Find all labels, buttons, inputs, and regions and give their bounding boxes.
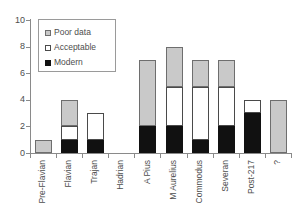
x-axis-category-label: Pre-Flavian xyxy=(38,160,47,217)
bar-group xyxy=(166,20,183,153)
bar-segment-poor-data xyxy=(35,140,52,153)
bar-segment-poor-data xyxy=(139,60,156,127)
x-axis-category-label: Severan xyxy=(221,160,230,217)
bar-group xyxy=(244,20,261,153)
bar-segment-poor-data xyxy=(270,100,287,153)
bar-segment-acceptable xyxy=(166,87,183,127)
x-axis-category-label: Trajan xyxy=(90,160,99,217)
legend-swatch-modern-icon xyxy=(45,60,51,66)
bar-group xyxy=(139,20,156,153)
x-axis-category-label: Post-217 xyxy=(247,160,256,217)
x-axis-line xyxy=(30,153,292,154)
x-axis-tick xyxy=(82,154,83,158)
bar-segment-modern xyxy=(166,126,183,153)
legend-label: Modern xyxy=(54,58,83,67)
x-axis-tick xyxy=(30,154,31,158)
y-axis-tick-label: 8 xyxy=(1,42,25,51)
bar-segment-acceptable xyxy=(244,100,261,113)
x-axis-category-label: Flavian xyxy=(64,160,73,217)
bar-segment-acceptable xyxy=(218,87,235,127)
y-axis-tick-label: 4 xyxy=(1,95,25,104)
x-axis-category-label: M Aurelius xyxy=(169,160,178,217)
legend-item-modern: Modern xyxy=(45,58,83,67)
bar-segment-poor-data xyxy=(192,60,209,87)
y-axis-label-group: 6 xyxy=(0,69,25,78)
bar-group xyxy=(192,20,209,153)
bar-segment-modern xyxy=(244,113,261,153)
y-axis-tick-label: 6 xyxy=(1,69,25,78)
x-axis-category-label: A Pius xyxy=(143,160,152,217)
legend-item-poor-data: Poor data xyxy=(45,28,91,37)
bar-segment-modern xyxy=(87,140,104,153)
bar-segment-acceptable xyxy=(87,113,104,140)
y-axis-tick-label: 10 xyxy=(1,16,25,25)
y-axis-label-group: 8 xyxy=(0,42,25,51)
bar-group xyxy=(218,20,235,153)
y-axis-label-group: 10 xyxy=(0,16,25,25)
legend-item-acceptable: Acceptable xyxy=(45,43,96,52)
legend-swatch-poor-data-icon xyxy=(45,30,51,36)
x-axis-tick xyxy=(56,154,57,158)
bar-group xyxy=(270,20,287,153)
x-axis-tick xyxy=(108,154,109,158)
bar-segment-poor-data xyxy=(61,100,78,127)
legend-label: Acceptable xyxy=(54,43,96,52)
chart-figure: 10 8 6 4 2 0 Pre-Flavian Flavian Trajan … xyxy=(0,0,302,217)
bar-segment-modern xyxy=(192,140,209,153)
bar-segment-modern xyxy=(61,140,78,153)
x-axis-tick xyxy=(265,154,266,158)
x-axis-tick xyxy=(187,154,188,158)
bar-segment-modern xyxy=(139,126,156,153)
y-axis-tick-label: 2 xyxy=(1,122,25,131)
y-axis-tick-label: 0 xyxy=(1,149,25,158)
bar-segment-modern xyxy=(218,126,235,153)
x-axis-category-label: Hadrian xyxy=(116,160,125,217)
legend-label: Poor data xyxy=(54,28,91,37)
y-axis-label-group: 0 xyxy=(0,149,25,158)
bar-segment-acceptable xyxy=(192,87,209,140)
bar-segment-poor-data xyxy=(166,47,183,87)
x-axis-category-label: ? xyxy=(273,160,282,217)
x-axis-tick xyxy=(134,154,135,158)
y-axis-label-group: 2 xyxy=(0,122,25,131)
x-axis-tick xyxy=(291,154,292,158)
bar-segment-poor-data xyxy=(218,60,235,87)
x-axis-tick xyxy=(160,154,161,158)
bar-segment-acceptable xyxy=(61,126,78,139)
x-axis-category-label: Commodus xyxy=(195,160,204,217)
chart-legend: Poor data Acceptable Modern xyxy=(38,19,116,72)
y-axis-label-group: 4 xyxy=(0,95,25,104)
legend-swatch-acceptable-icon xyxy=(45,45,51,51)
x-axis-tick xyxy=(213,154,214,158)
x-axis-tick xyxy=(239,154,240,158)
